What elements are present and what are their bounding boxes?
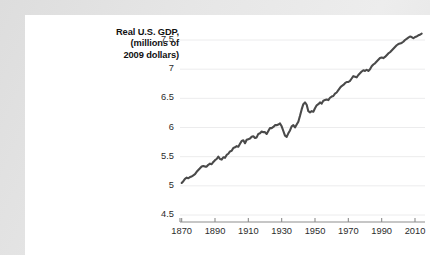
y-tick-label-4.5: 4.5 xyxy=(148,209,174,219)
y-tick-label-5: 5 xyxy=(148,180,174,190)
figure-card: Real U.S. GDP, (millions of 2009 dollars… xyxy=(25,15,430,255)
x-tick-label-1950: 1950 xyxy=(298,226,332,236)
x-tick-label-1890: 1890 xyxy=(198,226,232,236)
gdp-line-series xyxy=(182,34,422,183)
line-chart xyxy=(25,15,430,255)
x-tick-label-1970: 1970 xyxy=(331,226,365,236)
y-tick-label-5.5: 5.5 xyxy=(148,151,174,161)
x-tick-label-1990: 1990 xyxy=(365,226,399,236)
x-axis-group xyxy=(180,218,425,222)
y-tick-label-6: 6 xyxy=(148,122,174,132)
gridlines-group xyxy=(180,40,425,215)
y-tick-label-7.5: 7.5 xyxy=(148,34,174,44)
y-tick-label-6.5: 6.5 xyxy=(148,92,174,102)
x-tick-label-1870: 1870 xyxy=(165,226,199,236)
y-tick-label-7: 7 xyxy=(148,63,174,73)
x-tick-label-2010: 2010 xyxy=(398,226,430,236)
x-tick-label-1930: 1930 xyxy=(265,226,299,236)
figure-root: Real U.S. GDP, (millions of 2009 dollars… xyxy=(0,0,430,255)
x-tick-label-1910: 1910 xyxy=(231,226,265,236)
